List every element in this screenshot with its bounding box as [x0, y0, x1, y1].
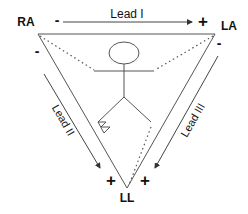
electrode-ll-label: LL	[120, 191, 135, 205]
electrode-ra-label: RA	[17, 15, 35, 29]
lead2-label: Lead II	[50, 102, 77, 137]
lead3: Lead III - +	[140, 35, 222, 190]
lead3-positive-sign: +	[140, 171, 150, 190]
lead1-positive-sign: +	[198, 12, 208, 31]
einthoven-triangle-diagram: Lead I - + Lead II - + Lead III - + RA L…	[0, 0, 248, 214]
head	[109, 42, 139, 64]
left-foot	[98, 122, 110, 133]
right-leg	[124, 97, 151, 122]
lead1-negative-sign: -	[55, 12, 60, 28]
left-leg	[98, 97, 124, 122]
lead2-positive-sign: +	[106, 171, 116, 190]
ra-wire	[40, 36, 94, 70]
lead3-arrow	[155, 56, 218, 168]
lead1: Lead I - +	[55, 7, 208, 31]
lead1-label: Lead I	[110, 7, 143, 21]
lead2-negative-sign: -	[35, 43, 40, 59]
stick-figure	[94, 42, 154, 133]
electrode-la-label: LA	[221, 19, 237, 33]
lead3-negative-sign: -	[217, 35, 222, 51]
